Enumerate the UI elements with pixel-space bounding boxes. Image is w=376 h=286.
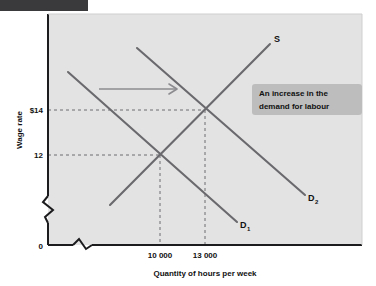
- y-tick-label-12: 12: [34, 151, 43, 160]
- origin-label: 0: [39, 242, 44, 251]
- x-tick-label-10000: 10 000: [148, 251, 173, 260]
- annotation-line-2: demand for labour: [259, 102, 329, 111]
- curve-label-S: S: [274, 34, 280, 44]
- curve-label-D2: D: [308, 193, 315, 203]
- x-axis-title: Quantity of hours per week: [153, 269, 257, 278]
- annotation-callout: An increase in the demand for labour: [252, 84, 362, 115]
- figure-root: $14 12 0 10 000 13 000 Wage rate Quantit…: [0, 0, 376, 286]
- y-tick-label-14: $14: [30, 106, 44, 115]
- supply-demand-chart: $14 12 0 10 000 13 000 Wage rate Quantit…: [0, 0, 376, 286]
- annotation-line-1: An increase in the: [259, 89, 328, 98]
- x-tick-label-13000: 13 000: [193, 251, 218, 260]
- y-axis-title: Wage rate: [15, 110, 24, 148]
- curve-label-D1: D: [240, 220, 247, 230]
